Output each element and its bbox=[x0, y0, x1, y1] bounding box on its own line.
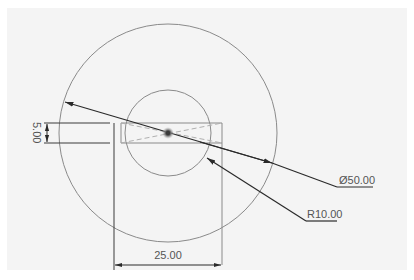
diameter-leader-tail bbox=[272, 163, 337, 187]
width-dimension-label[interactable]: 25.00 bbox=[154, 249, 182, 261]
cad-drawing[interactable]: 5.00 25.00 Ø50.00 R10.00 bbox=[0, 0, 414, 280]
center-point[interactable] bbox=[166, 131, 170, 135]
diameter-dimension-label[interactable]: Ø50.00 bbox=[339, 174, 375, 186]
height-dimension-label[interactable]: 5.00 bbox=[31, 122, 43, 143]
radius-dimension-label[interactable]: R10.00 bbox=[307, 208, 342, 220]
